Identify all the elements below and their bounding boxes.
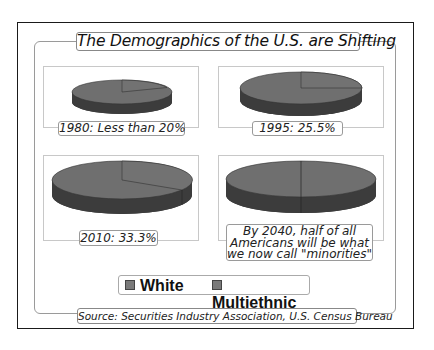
panel-label-1980: 1980: Less than 20% — [58, 121, 185, 136]
legend-swatch-white — [125, 280, 135, 290]
legend-label-white: White — [140, 277, 184, 294]
chart-title: The Demographics of the U.S. are Shiftin… — [76, 32, 360, 51]
legend-item-multiethnic: Multiethnic — [212, 277, 309, 311]
pie-2010 — [50, 160, 194, 218]
pie-2040 — [224, 160, 378, 218]
pie-1995 — [238, 70, 364, 120]
panel-label-2040: By 2040, half of all Americans will be w… — [226, 224, 373, 261]
panel-label-2010: 2010: 33.3% — [79, 230, 158, 246]
legend-swatch-multiethnic — [212, 280, 222, 290]
legend-item-white: White — [125, 277, 184, 294]
source-note: Source: Securities Industry Association,… — [77, 308, 357, 324]
legend: White Multiethnic — [118, 275, 310, 295]
panel-label-1995: 1995: 25.5% — [252, 121, 343, 136]
pie-1980 — [70, 78, 174, 118]
